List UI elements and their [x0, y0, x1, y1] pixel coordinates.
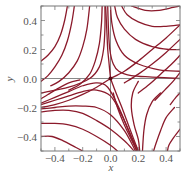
- traj-upper-right-2: [115, 6, 180, 50]
- traj-upper-left-1: [41, 6, 74, 81]
- traj-upper-left-3: [69, 6, 102, 90]
- y-tick-labels: −0.4−0.20.00.20.4: [17, 15, 37, 143]
- y-tick-label: −0.4: [17, 131, 37, 143]
- traj-lower-right-3: [142, 93, 160, 151]
- traj-upper-right-1: [111, 6, 181, 71]
- traj-right-4: [170, 93, 180, 105]
- traj-lower-left-6: [41, 136, 83, 151]
- saddle-point-dot: [109, 77, 113, 81]
- y-axis-label: y: [3, 76, 15, 82]
- traj-upper-left-2: [51, 6, 90, 86]
- phase-portrait-chart: −0.4−0.20.00.20.4 −0.4−0.20.00.20.4 x y: [0, 0, 187, 184]
- traj-lower-right-5: [167, 129, 180, 151]
- y-tick-label: 0.0: [23, 73, 37, 85]
- x-axis-label: x: [108, 161, 114, 173]
- x-tick-label: −0.4: [45, 152, 65, 164]
- traj-upper-right-3: [122, 6, 180, 27]
- traj-lower-left-1: [41, 90, 138, 151]
- traj-lower-right-4: [154, 108, 175, 152]
- saddle-point-marker: [109, 77, 113, 81]
- y-tick-label: −0.2: [17, 102, 37, 114]
- x-tick-label: 0.2: [131, 152, 145, 164]
- x-tick-label: −0.2: [73, 152, 93, 164]
- y-tick-label: 0.2: [23, 44, 37, 56]
- y-tick-label: 0.4: [23, 15, 37, 27]
- traj-right-2: [138, 55, 180, 93]
- x-tick-label: 0.4: [159, 152, 173, 164]
- traj-near-manifold-right: [108, 6, 180, 79]
